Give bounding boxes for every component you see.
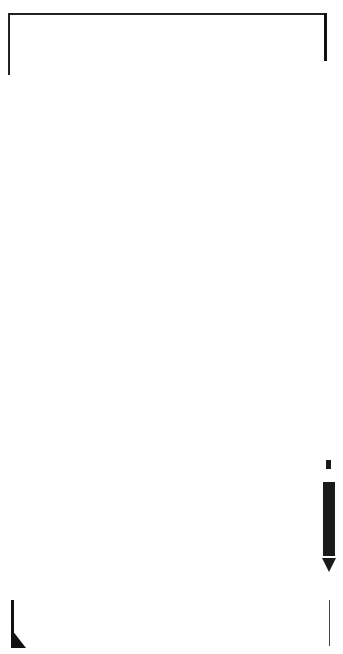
card-edge-bottom-right [329,600,330,646]
card-edge-right [324,13,327,61]
label-mark [326,460,331,469]
card-corner-bottom-left [12,630,26,648]
start-marker-arrow-icon [322,558,336,572]
punch-card [0,0,343,654]
card-edge-left [8,13,10,75]
card-edge-top [8,13,326,15]
card-label-box [323,482,335,556]
